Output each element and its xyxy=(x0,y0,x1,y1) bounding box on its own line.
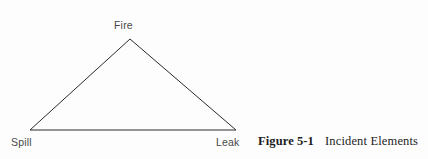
figure-caption-number: Figure 5-1 xyxy=(258,134,314,148)
figure-caption-title: Incident Elements xyxy=(325,134,418,148)
incident-elements-diagram: Fire Spill Leak xyxy=(0,0,256,159)
figure-caption: Figure 5-1Incident Elements xyxy=(258,134,418,149)
triangle-outline xyxy=(30,39,236,130)
vertex-label-fire: Fire xyxy=(114,19,133,31)
vertex-label-spill: Spill xyxy=(11,136,32,148)
vertex-label-leak: Leak xyxy=(216,136,240,148)
figure-container: Fire Spill Leak Figure 5-1Incident Eleme… xyxy=(0,0,428,159)
